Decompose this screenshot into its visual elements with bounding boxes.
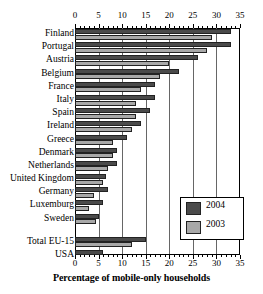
x-tick-label: 5	[88, 10, 110, 20]
x-tick-label: 20	[158, 10, 180, 20]
x-tick-label: 15	[135, 10, 157, 20]
category-label: USA	[0, 248, 74, 261]
bar-2004	[75, 42, 231, 47]
category-label: Belgium	[0, 67, 74, 80]
category-label: Netherlands	[0, 159, 74, 172]
bar-2003	[75, 242, 132, 247]
legend-label: 2004	[206, 200, 225, 210]
bar-2004	[75, 29, 231, 34]
bar-group	[75, 134, 240, 147]
category-label: Luxemburg	[0, 198, 74, 211]
bar-group	[75, 147, 240, 160]
bar-group	[75, 28, 240, 41]
x-tick-label: 35	[229, 10, 251, 20]
bar-2004	[75, 135, 127, 140]
bar-2004	[75, 187, 108, 192]
legend-swatch-2003	[186, 221, 201, 234]
bar-2004	[75, 69, 179, 74]
bar-2004	[75, 108, 150, 113]
x-tick-label: 25	[182, 10, 204, 20]
x-tick-label: 0	[64, 10, 86, 20]
category-label: Total EU-15	[0, 235, 74, 248]
bar-group	[75, 173, 240, 186]
category-label: United Kingdom	[0, 172, 74, 185]
bar-2004	[75, 161, 117, 166]
bar-group	[75, 68, 240, 81]
bar-2003	[75, 35, 212, 40]
category-label: Germany	[0, 185, 74, 198]
bar-2003	[75, 114, 136, 119]
bar-2004	[75, 237, 146, 242]
bar-2003	[75, 101, 136, 106]
bar-2003	[75, 74, 160, 79]
category-label: Finland	[0, 27, 74, 40]
category-label: France	[0, 80, 74, 93]
legend: 2004 2003	[180, 197, 244, 240]
bar-group	[75, 94, 240, 107]
category-label: Spain	[0, 106, 74, 119]
category-label: Greece	[0, 133, 74, 146]
x-tick-label: 10	[111, 10, 133, 20]
bar-group	[75, 160, 240, 173]
bar-2004	[75, 95, 155, 100]
x-axis-title: Percentage of mobile-only households	[0, 272, 263, 283]
bar-2003	[75, 206, 89, 211]
bar-chart: 05101520253035 05101520253035 FinlandPor…	[0, 0, 263, 294]
bar-2004	[75, 200, 103, 205]
bar-2004	[75, 148, 117, 153]
bar-2003	[75, 153, 113, 158]
bar-2003	[75, 180, 103, 185]
category-label: Ireland	[0, 119, 74, 132]
bar-2004	[75, 121, 141, 126]
bar-group	[75, 120, 240, 133]
bar-2003	[75, 166, 108, 171]
category-label: Austria	[0, 53, 74, 66]
bar-2004	[75, 214, 99, 219]
bar-2003	[75, 87, 141, 92]
category-label: Italy	[0, 93, 74, 106]
bar-2003	[75, 140, 113, 145]
category-label: Sweden	[0, 212, 74, 225]
legend-item: 2003	[181, 217, 243, 236]
bar-row: USA	[0, 249, 263, 262]
category-label: Portugal	[0, 40, 74, 53]
bar-group	[75, 249, 240, 262]
bar-group	[75, 41, 240, 54]
bar-group	[75, 54, 240, 67]
bar-group	[75, 81, 240, 94]
bar-2003	[75, 127, 132, 132]
bar-2003	[75, 48, 207, 53]
legend-swatch-2004	[186, 202, 201, 215]
bar-2004	[75, 55, 198, 60]
bar-2004	[75, 174, 106, 179]
bar-2004	[75, 82, 155, 87]
legend-item: 2004	[181, 198, 243, 217]
bar-2004	[75, 250, 103, 255]
legend-label: 2003	[206, 219, 225, 229]
x-tick-label: 30	[205, 10, 227, 20]
bar-group	[75, 107, 240, 120]
category-label: Denmark	[0, 146, 74, 159]
bar-2003	[75, 193, 94, 198]
bar-2003	[75, 219, 96, 224]
bar-2003	[75, 61, 169, 66]
